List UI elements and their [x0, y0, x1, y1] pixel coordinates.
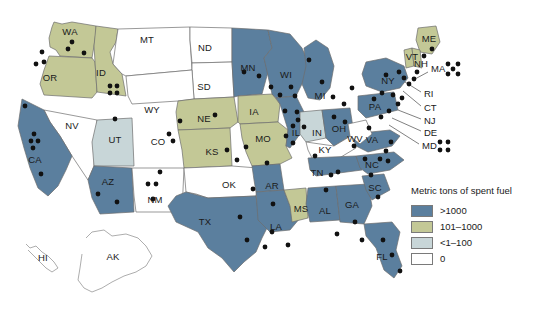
legend-label: >1000: [440, 205, 467, 216]
reactor-site-dot: [396, 102, 401, 107]
reactor-site-dot: [332, 115, 337, 120]
reactor-site-dot: [167, 132, 172, 137]
state-label-mi: MI: [315, 90, 326, 101]
reactor-site-dot: [171, 139, 176, 144]
reactor-site-dot: [263, 245, 268, 250]
reactor-site-dot: [269, 85, 274, 90]
dot-cluster-md: [438, 140, 451, 153]
leader-line-nj: [398, 110, 421, 119]
state-label-ia: IA: [249, 106, 259, 117]
reactor-site-dot: [352, 144, 357, 149]
reactor-site-dot: [289, 85, 294, 90]
state-label-wv: WV: [347, 133, 363, 144]
legend: Metric tons of spent fuel >1000101–1000<…: [411, 185, 539, 267]
reactor-site-dot: [108, 84, 113, 89]
legend-swatch: [411, 205, 433, 217]
state-ia: [238, 94, 280, 124]
reactor-site-dot: [158, 170, 163, 175]
leader-line-ct: [403, 91, 421, 106]
reactor-site-dot: [245, 238, 250, 243]
reactor-site-dot: [360, 238, 365, 243]
state-label-ne: NE: [197, 113, 211, 124]
state-label-ks: KS: [205, 146, 218, 157]
state-label-ca: CA: [28, 154, 42, 165]
reactor-site-dot: [286, 243, 291, 248]
reactor-site-dot: [108, 91, 113, 96]
state-mo: [240, 122, 292, 166]
reactor-site-dot: [407, 82, 412, 87]
reactor-site-dot: [302, 125, 307, 130]
reactor-site-dot: [415, 70, 420, 75]
reactor-site-dot: [367, 126, 372, 131]
reactor-site-dot: [446, 72, 451, 77]
state-nc: [356, 152, 404, 174]
state-label-hi: HI: [38, 252, 48, 263]
reactor-site-dot: [402, 76, 407, 81]
reactor-site-dot: [331, 95, 336, 100]
state-label-co: CO: [151, 136, 166, 147]
reactor-site-dot: [293, 94, 298, 99]
reactor-site-dot: [438, 148, 443, 153]
reactor-site-dot: [430, 47, 435, 52]
callout-label-ct: CT: [424, 102, 437, 113]
state-label-ny: NY: [381, 75, 395, 86]
state-label-in: IN: [312, 127, 322, 138]
reactor-site-dot: [446, 148, 451, 153]
reactor-site-dot: [329, 173, 334, 178]
state-label-mt: MT: [140, 34, 154, 45]
reactor-site-dot: [446, 62, 451, 67]
state-label-id: ID: [96, 67, 106, 78]
state-label-ok: OK: [222, 179, 237, 190]
state-label-al: AL: [319, 205, 331, 216]
us-spent-fuel-map: WAORIDMTNDSDWYNVUTCOCAAZNMNEKSOKTXMNIAMO…: [0, 0, 544, 314]
reactor-site-dot: [400, 96, 405, 101]
state-label-nd: ND: [198, 42, 212, 53]
reactor-site-dot: [446, 140, 451, 145]
reactor-site-dot: [353, 220, 358, 225]
reactor-site-dot: [412, 77, 417, 82]
reactor-site-dot: [397, 70, 402, 75]
state-label-ar: AR: [265, 180, 279, 191]
reactor-site-dot: [178, 119, 183, 124]
reactor-site-dot: [271, 202, 276, 207]
legend-swatch: [411, 253, 433, 265]
state-label-ak: AK: [106, 251, 120, 262]
state-label-or: OR: [43, 72, 58, 83]
reactor-site-dot: [387, 109, 392, 114]
state-label-wy: WY: [144, 104, 160, 115]
reactor-site-dot: [70, 40, 75, 45]
reactor-site-dot: [278, 93, 283, 98]
reactor-site-dot: [307, 58, 312, 63]
callout-label-md: MD: [422, 140, 437, 151]
state-label-nh: NH: [414, 58, 428, 69]
state-label-nv: NV: [65, 120, 79, 131]
state-label-tn: TN: [310, 167, 323, 178]
state-label-ga: GA: [345, 199, 360, 210]
state-label-nm: NM: [147, 194, 162, 205]
reactor-site-dot: [381, 238, 386, 243]
reactor-site-dot: [284, 134, 289, 139]
reactor-site-dot: [291, 141, 296, 146]
reactor-site-dot: [23, 104, 28, 109]
reactor-site-dot: [244, 145, 249, 150]
reactor-site-dot: [40, 50, 45, 55]
reactor-site-dot: [384, 149, 389, 154]
state-wy: [126, 70, 194, 104]
state-label-ms: MS: [294, 203, 309, 214]
reactor-site-dot: [379, 115, 384, 120]
state-label-il: IL: [292, 127, 300, 138]
legend-item: >1000: [411, 203, 539, 218]
reactor-site-dot: [451, 67, 456, 72]
state-label-la: LA: [270, 221, 282, 232]
reactor-site-dot: [235, 158, 240, 163]
state-label-tx: TX: [199, 216, 212, 227]
reactor-site-dot: [36, 139, 41, 144]
state-label-az: AZ: [102, 176, 115, 187]
reactor-site-dot: [39, 172, 44, 177]
state-label-mn: MN: [240, 62, 255, 73]
reactor-site-dot: [320, 80, 325, 85]
state-label-wa: WA: [62, 26, 78, 37]
state-label-mo: MO: [255, 133, 271, 144]
legend-item: <1–100: [411, 235, 539, 250]
legend-item: 0: [411, 251, 539, 266]
